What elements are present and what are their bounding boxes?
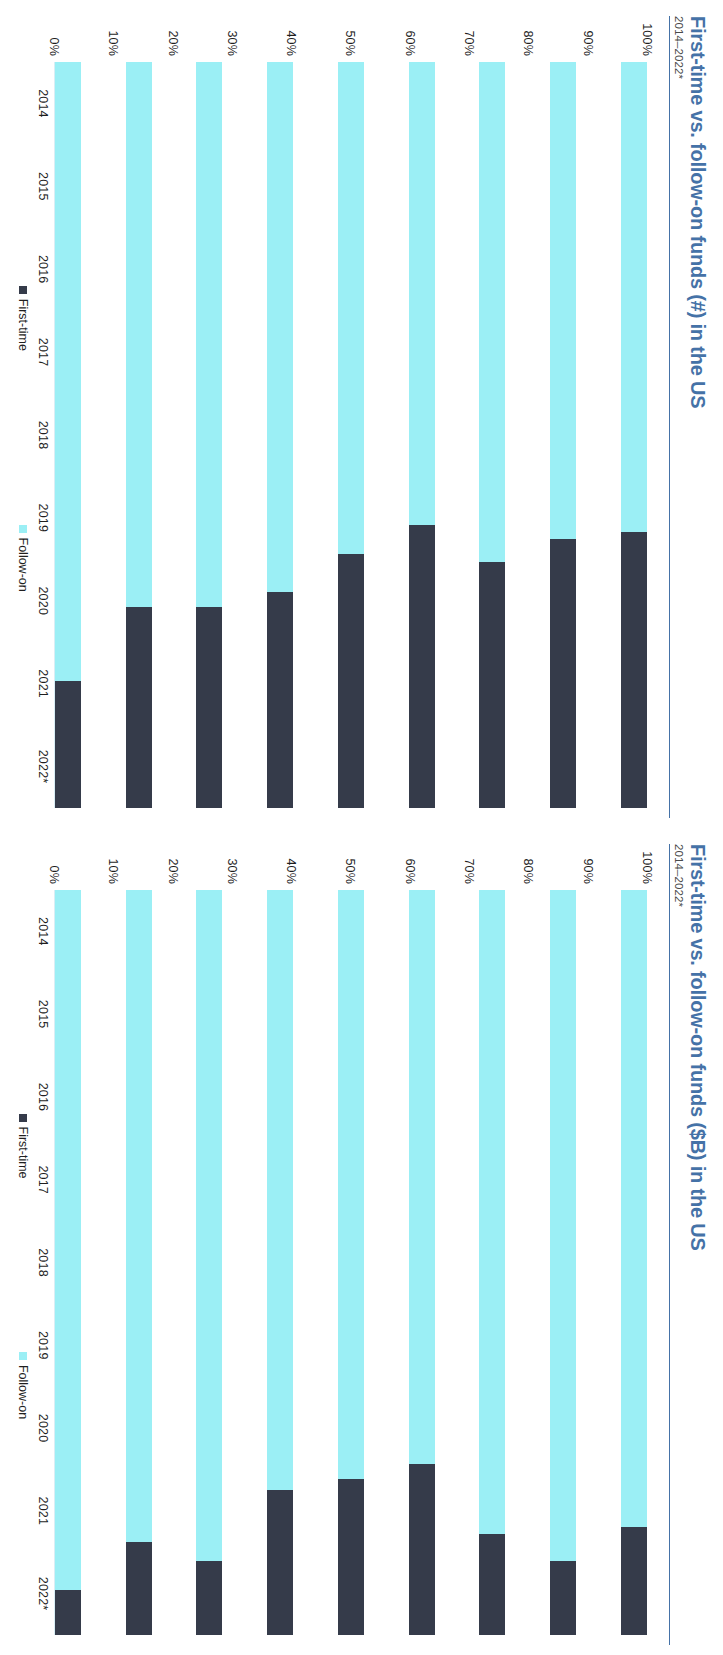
- bar-segment-first-time[interactable]: [338, 1479, 364, 1635]
- y-tick-label: 70%: [462, 30, 476, 56]
- y-tick-label: 40%: [284, 858, 298, 884]
- y-axis-funds-dollars: 100%90%80%70%60%50%40%30%20%10%0%: [54, 844, 647, 890]
- y-tick-label: 70%: [462, 858, 476, 884]
- bar-segment-follow-on[interactable]: [409, 890, 435, 1464]
- bar-group-2018[interactable]: [338, 890, 364, 1635]
- bar-segment-first-time[interactable]: [550, 539, 576, 808]
- bar-segment-first-time[interactable]: [55, 1590, 81, 1635]
- bar-segment-first-time[interactable]: [480, 562, 506, 808]
- bar-segment-follow-on[interactable]: [338, 62, 364, 554]
- legend-swatch-icon: [19, 286, 27, 294]
- x-tick-label-2017: 2017: [36, 1165, 50, 1194]
- bar-group-2018[interactable]: [338, 62, 364, 808]
- x-tick-label-2014: 2014: [36, 917, 50, 946]
- legend-swatch-icon: [19, 1352, 27, 1360]
- bar-segment-follow-on[interactable]: [267, 890, 293, 1490]
- legend-swatch-icon: [19, 1114, 27, 1122]
- bar-group-2022[interactable]: [55, 62, 81, 808]
- legend-label: Follow-on: [16, 1365, 30, 1419]
- x-tick-label-2021: 2021: [36, 669, 50, 698]
- bar-segment-first-time[interactable]: [550, 1561, 576, 1636]
- legend-item-first-time[interactable]: First-time: [16, 286, 30, 351]
- x-tick-label-2022: 2022*: [36, 1577, 50, 1611]
- y-tick-label: 50%: [344, 858, 358, 884]
- y-tick-label: 0%: [47, 38, 61, 56]
- y-tick-label: 50%: [344, 30, 358, 56]
- bar-segment-follow-on[interactable]: [267, 62, 293, 592]
- bar-group-2016[interactable]: [480, 62, 506, 808]
- bar-segment-follow-on[interactable]: [409, 62, 435, 525]
- bar-group-2015[interactable]: [550, 890, 576, 1635]
- bar-group-2019[interactable]: [267, 890, 293, 1635]
- bar-group-2021[interactable]: [126, 890, 152, 1635]
- bar-group-2015[interactable]: [550, 62, 576, 808]
- bar-segment-first-time[interactable]: [409, 525, 435, 808]
- charts-row: First-time vs. follow-on funds (#) in th…: [0, 0, 723, 1655]
- legend-label: First-time: [16, 299, 30, 351]
- bar-group-2017[interactable]: [409, 890, 435, 1635]
- y-tick-label: 100%: [640, 851, 654, 884]
- legend-item-follow-on[interactable]: Follow-on: [16, 1352, 30, 1419]
- bar-segment-follow-on[interactable]: [126, 890, 152, 1542]
- bar-group-2014[interactable]: [621, 890, 647, 1635]
- bar-segment-follow-on[interactable]: [55, 890, 81, 1590]
- bar-segment-first-time[interactable]: [197, 607, 223, 808]
- bar-segment-first-time[interactable]: [126, 607, 152, 808]
- y-tick-label: 0%: [47, 866, 61, 884]
- bar-group-2016[interactable]: [480, 890, 506, 1635]
- title-divider-funds-dollars: [669, 844, 670, 1645]
- bar-segment-first-time[interactable]: [409, 1464, 435, 1635]
- y-tick-label: 100%: [640, 23, 654, 56]
- x-tick-label-2016: 2016: [36, 1083, 50, 1112]
- x-tick-label-2020: 2020: [36, 586, 50, 615]
- y-tick-label: 40%: [284, 30, 298, 56]
- y-tick-label: 30%: [225, 30, 239, 56]
- bar-segment-first-time[interactable]: [621, 532, 647, 808]
- bar-segment-follow-on[interactable]: [621, 890, 647, 1527]
- bar-segment-first-time[interactable]: [621, 1527, 647, 1635]
- chart-panel-funds-count: First-time vs. follow-on funds (#) in th…: [0, 0, 723, 828]
- x-tick-label-2017: 2017: [36, 338, 50, 367]
- bar-group-2017[interactable]: [409, 62, 435, 808]
- bar-group-2014[interactable]: [621, 62, 647, 808]
- bar-group-2021[interactable]: [126, 62, 152, 808]
- y-tick-label: 90%: [581, 30, 595, 56]
- bar-segment-follow-on[interactable]: [480, 890, 506, 1534]
- bar-segment-first-time[interactable]: [197, 1561, 223, 1636]
- bar-group-2022[interactable]: [55, 890, 81, 1635]
- plot-area-funds-count: [54, 62, 653, 808]
- bar-segment-first-time[interactable]: [55, 681, 81, 808]
- plot-area-funds-dollars: [54, 890, 653, 1635]
- legend-item-follow-on[interactable]: Follow-on: [16, 525, 30, 592]
- bar-segment-first-time[interactable]: [267, 1490, 293, 1635]
- bar-segment-first-time[interactable]: [338, 554, 364, 808]
- bar-group-2020[interactable]: [197, 62, 223, 808]
- bar-segment-follow-on[interactable]: [55, 62, 81, 681]
- bar-group-2019[interactable]: [267, 62, 293, 808]
- bar-segment-first-time[interactable]: [126, 1542, 152, 1635]
- bar-segment-follow-on[interactable]: [480, 62, 506, 562]
- legend-label: Follow-on: [16, 538, 30, 592]
- bar-segment-follow-on[interactable]: [338, 890, 364, 1479]
- bar-segment-follow-on[interactable]: [197, 62, 223, 607]
- x-tick-label-2015: 2015: [36, 172, 50, 201]
- bar-segment-follow-on[interactable]: [550, 62, 576, 539]
- title-divider-funds-count: [669, 16, 670, 818]
- legend-item-first-time[interactable]: First-time: [16, 1114, 30, 1179]
- bar-group-2020[interactable]: [197, 890, 223, 1635]
- bar-segment-follow-on[interactable]: [197, 890, 223, 1561]
- bar-segment-first-time[interactable]: [267, 592, 293, 808]
- y-tick-label: 10%: [106, 30, 120, 56]
- bar-segment-first-time[interactable]: [480, 1534, 506, 1635]
- plot-wrap-funds-count: 100%90%80%70%60%50%40%30%20%10%0% 201420…: [8, 16, 653, 818]
- legend-funds-count: First-timeFollow-on: [10, 62, 30, 808]
- x-tick-label-2014: 2014: [36, 89, 50, 118]
- chart-title-funds-count: First-time vs. follow-on funds (#) in th…: [687, 16, 709, 818]
- bar-segment-follow-on[interactable]: [126, 62, 152, 607]
- bar-segment-follow-on[interactable]: [550, 890, 576, 1561]
- y-tick-label: 80%: [521, 858, 535, 884]
- y-tick-label: 60%: [403, 30, 417, 56]
- bar-segment-follow-on[interactable]: [621, 62, 647, 532]
- x-tick-label-2015: 2015: [36, 1000, 50, 1029]
- x-tick-label-2016: 2016: [36, 255, 50, 284]
